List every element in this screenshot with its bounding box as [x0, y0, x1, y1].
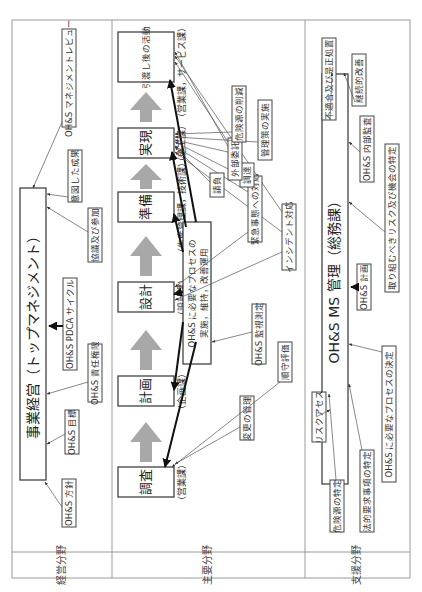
svg-text:OH&S PDCA サイクル: OH&S PDCA サイクル	[65, 279, 75, 369]
svg-text:意図した成果: 意図した成果	[70, 149, 80, 203]
ohs-ms-management-label: OH&S MS 管理（総務課）	[326, 194, 342, 363]
process-box-line1: OH&S に必要なプロセスの	[187, 239, 197, 348]
svg-text:（営業課）: （営業課）	[176, 460, 187, 505]
svg-text:外部委託: 外部委託	[230, 141, 240, 177]
section-label-management: 経営分野	[55, 545, 67, 585]
svg-text:危険源の削減: 危険源の削減	[234, 87, 244, 141]
svg-text:設計: 設計	[138, 284, 153, 310]
svg-text:調達: 調達	[242, 166, 252, 184]
svg-text:請負: 請負	[212, 176, 222, 194]
svg-text:OH&S 計画: OH&S 計画	[359, 264, 369, 310]
svg-text:OH&S 目標: OH&S 目標	[67, 409, 77, 455]
svg-text:OH&S 方針: OH&S 方針	[64, 480, 74, 526]
svg-text:OH&S に必要なプロセスの決定: OH&S に必要なプロセスの決定	[384, 351, 394, 478]
section-label-support: 支援分野	[350, 545, 362, 585]
svg-text:危険源の特定: 危険源の特定	[332, 479, 342, 533]
svg-text:インシデント対応: インシデント対応	[284, 201, 294, 273]
svg-text:OH&S 内部監査: OH&S 内部監査	[362, 117, 372, 181]
svg-text:リスクアセス: リスクアセス	[314, 390, 324, 444]
svg-text:引渡し後の活動: 引渡し後の活動	[141, 26, 151, 89]
svg-text:法的要求事項の特定: 法的要求事項の特定	[362, 451, 372, 532]
svg-text:協議及び参加: 協議及び参加	[90, 208, 100, 262]
flow-arrow-3	[130, 236, 162, 276]
ohs-ms-diagram: 経営分野 主要分野 支援分野 事業経営（トップマネジメント） OH&S 方針 O…	[0, 0, 422, 592]
process-box-line2: 実施，維持，改善運用	[199, 248, 209, 338]
flow-arrow-2	[130, 330, 162, 370]
flow-arrow-1	[130, 422, 162, 462]
svg-text:実現: 実現	[138, 130, 153, 156]
svg-text:計画: 計画	[138, 378, 153, 404]
flow-arrow-4	[130, 164, 162, 189]
svg-text:準備: 準備	[138, 194, 153, 220]
svg-text:OH&S 監視測定: OH&S 監視測定	[254, 302, 264, 366]
svg-text:継続的改善: 継続的改善	[354, 58, 364, 103]
section-label-main: 主要分野	[202, 545, 213, 585]
svg-text:OH&S 責任権限: OH&S 責任権限	[90, 341, 100, 405]
flow-arrow-5	[130, 92, 162, 122]
svg-text:OH&S マネジメントレビュー: OH&S マネジメントレビュー	[64, 19, 74, 137]
svg-text:管理策の実施: 管理策の実施	[260, 103, 270, 157]
top-management-label: 事業経営（トップマネジメント）	[25, 229, 41, 439]
svg-text:変更の管理: 変更の管理	[242, 396, 252, 441]
diagram-canvas: 経営分野 主要分野 支援分野 事業経営（トップマネジメント） OH&S 方針 O…	[0, 0, 422, 592]
svg-text:（営業課，サービス課）: （営業課，サービス課）	[176, 23, 187, 122]
svg-text:取り組むべきリスク及び機会の特定: 取り組むべきリスク及び機会の特定	[387, 146, 397, 290]
svg-text:調査: 調査	[138, 469, 153, 495]
svg-text:順守評価: 順守評価	[280, 344, 290, 380]
